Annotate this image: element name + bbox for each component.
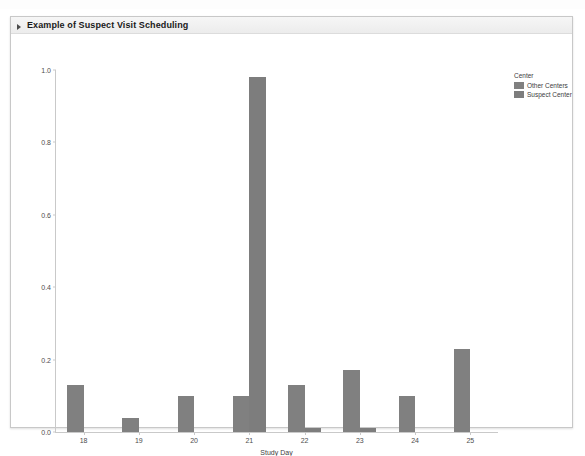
x-axis-tick-label: 24 [411,437,419,444]
x-axis-tick-mark [139,432,140,435]
x-axis-tick-label: 20 [190,437,198,444]
panel-titlebar[interactable]: Example of Suspect Visit Scheduling [11,17,572,34]
bar [233,396,250,432]
plot-area: 0.00.20.40.60.81.01819202122232425 [55,70,498,433]
y-axis-tick-mark [53,359,56,360]
y-axis-tick-mark [53,432,56,433]
legend-item[interactable]: Other Centers [514,82,585,89]
y-axis-tick-label: 0.8 [41,139,51,146]
y-axis-tick-label: 0.2 [41,356,51,363]
legend-item[interactable]: Suspect Center [514,91,585,98]
x-axis-tick-mark [84,432,85,435]
legend-swatch-icon [514,82,524,89]
x-axis-tick-mark [194,432,195,435]
y-axis-tick-label: 0.0 [41,429,51,436]
bar [305,428,322,432]
x-axis-title: Study Day [55,449,498,456]
report-panel: Example of Suspect Visit Scheduling 0.00… [10,16,573,428]
y-axis-tick-label: 0.6 [41,211,51,218]
y-axis-tick-mark [53,287,56,288]
x-axis-tick-mark [305,432,306,435]
bar [399,396,416,432]
bar [67,385,84,432]
bar [288,385,305,432]
x-axis-tick-mark [470,432,471,435]
page-title: Example of Suspect Visit Scheduling [27,20,188,30]
chart-legend: Center Other CentersSuspect Center [514,72,585,100]
y-axis-tick-label: 0.4 [41,284,51,291]
x-axis-tick-label: 22 [301,437,309,444]
bar [249,77,266,432]
legend-items: Other CentersSuspect Center [514,82,585,98]
window-top-strip [0,0,585,9]
y-axis-tick-mark [53,142,56,143]
bar [343,370,360,432]
y-axis-tick-mark [53,70,56,71]
x-axis-tick-label: 23 [356,437,364,444]
x-axis-tick-mark [415,432,416,435]
bar [178,396,195,432]
y-axis-tick-label: 1.0 [41,67,51,74]
triangle-right-icon[interactable] [16,21,25,30]
x-axis-tick-label: 25 [466,437,474,444]
x-axis-tick-label: 19 [135,437,143,444]
legend-item-label: Suspect Center [527,91,572,98]
x-axis-tick-label: 21 [245,437,253,444]
legend-item-label: Other Centers [527,82,568,89]
legend-swatch-icon [514,91,524,98]
y-axis-tick-mark [53,214,56,215]
legend-title: Center [514,72,585,79]
bar [360,428,377,432]
x-axis-tick-mark [360,432,361,435]
chart-canvas: 0.00.20.40.60.81.01819202122232425 Study… [11,34,572,427]
bar [122,418,139,432]
x-axis-tick-mark [249,432,250,435]
bar [454,349,471,432]
x-axis-tick-label: 18 [80,437,88,444]
